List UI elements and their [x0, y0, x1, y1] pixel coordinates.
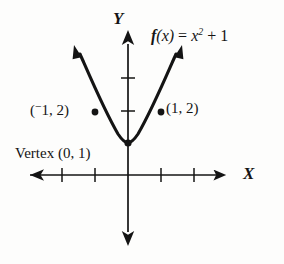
function-tail: + 1 [203, 27, 228, 44]
y-axis [121, 30, 135, 246]
coordinate-plane-svg [0, 0, 284, 264]
point-label-minus-1-2: (−1, 2) [30, 101, 69, 118]
x-axis-label: X [243, 165, 254, 182]
y-axis-bottom-arrowhead [122, 231, 134, 246]
vertex-label: Vertex (0, 1) [15, 146, 90, 161]
y-axis-top-arrowhead [122, 30, 134, 45]
point-marker-vertex [124, 139, 131, 146]
function-equation-label: f(x) = x2 + 1 [151, 27, 228, 44]
parabola-left-arrowhead [73, 45, 85, 62]
parabola-right-arrowhead [171, 45, 183, 62]
point-marker-1-2 [158, 109, 165, 116]
point-marker-minus-1-2 [92, 109, 99, 116]
point-label-1-2: (1, 2) [166, 101, 199, 116]
point-left-body: 1, 2) [42, 102, 70, 118]
negative-sign: − [35, 100, 42, 113]
function-equals: = [174, 27, 191, 44]
parabola-figure: Y X f(x) = x2 + 1 (−1, 2) (1, 2) Vertex … [0, 0, 284, 264]
y-axis-label: Y [113, 10, 123, 27]
x-axis [30, 168, 216, 182]
function-argument: (x) [156, 27, 174, 44]
